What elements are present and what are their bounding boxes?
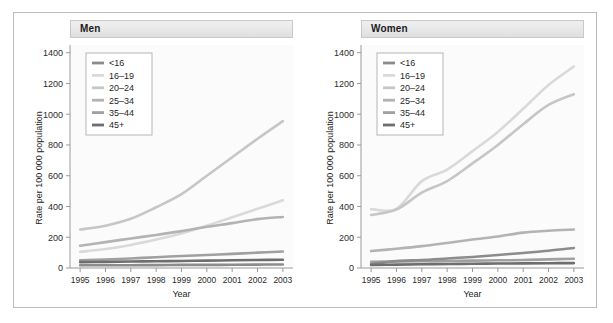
legend-label: <16: [400, 58, 415, 68]
legend-label: 20–24: [109, 83, 134, 93]
y-tick-label: 400: [339, 202, 354, 212]
y-tick-label: 200: [339, 233, 354, 243]
x-axis-label-men: Year: [70, 289, 293, 299]
x-tick-label: 2001: [514, 275, 533, 285]
x-tick-label: 1995: [71, 275, 90, 285]
x-tick-label: 1997: [121, 275, 140, 285]
y-tick-label: 400: [48, 202, 63, 212]
chart-plot-men: 0200400600800100012001400199519961997199…: [14, 13, 306, 307]
y-tick-label: 1200: [334, 79, 354, 89]
x-tick-label: 2003: [273, 275, 292, 285]
x-tick-label: 1996: [387, 275, 406, 285]
x-tick-label: 1998: [147, 275, 166, 285]
x-tick-label: 2001: [223, 275, 242, 285]
y-tick-label: 1000: [334, 110, 354, 120]
y-tick-label: 1000: [43, 110, 63, 120]
chart-plot-women: 0200400600800100012001400199519961997199…: [305, 13, 597, 307]
legend-label: 35–44: [400, 108, 425, 118]
y-tick-label: 0: [349, 263, 354, 273]
legend-label: 20–24: [400, 83, 425, 93]
x-tick-label: 1997: [412, 275, 431, 285]
x-tick-label: 2000: [488, 275, 507, 285]
y-tick-label: 1200: [43, 79, 63, 89]
x-tick-label: 2002: [539, 275, 558, 285]
panel-women: Women 0200400600800100012001400199519961…: [305, 13, 597, 307]
x-tick-label: 2000: [197, 275, 216, 285]
y-tick-label: 800: [339, 140, 354, 150]
legend-label: <16: [109, 58, 124, 68]
y-axis-label-men: Rate per 100 000 population: [34, 88, 44, 248]
series-line: [80, 264, 283, 265]
y-tick-label: 800: [48, 140, 63, 150]
x-tick-label: 2003: [564, 275, 583, 285]
panel-men: Men 020040060080010001200140019951996199…: [14, 13, 306, 307]
y-tick-label: 0: [58, 263, 63, 273]
x-axis-label-women: Year: [361, 289, 584, 299]
legend-label: 25–34: [400, 96, 425, 106]
legend-label: 25–34: [109, 96, 134, 106]
y-tick-label: 200: [48, 233, 63, 243]
figure-container: Men 020040060080010001200140019951996199…: [13, 12, 597, 308]
legend-label: 16–19: [109, 71, 134, 81]
y-tick-label: 1400: [43, 48, 63, 58]
x-tick-label: 1999: [172, 275, 191, 285]
y-tick-label: 600: [339, 171, 354, 181]
y-tick-label: 600: [48, 171, 63, 181]
y-axis-label-women: Rate per 100 000 population: [325, 88, 335, 248]
x-tick-label: 2002: [248, 275, 267, 285]
y-tick-label: 1400: [334, 48, 354, 58]
x-tick-label: 1995: [362, 275, 381, 285]
x-tick-label: 1996: [96, 275, 115, 285]
x-tick-label: 1998: [438, 275, 457, 285]
legend-label: 45+: [109, 120, 124, 130]
legend-label: 16–19: [400, 71, 425, 81]
x-tick-label: 1999: [463, 275, 482, 285]
legend-label: 35–44: [109, 108, 134, 118]
legend-label: 45+: [400, 120, 415, 130]
